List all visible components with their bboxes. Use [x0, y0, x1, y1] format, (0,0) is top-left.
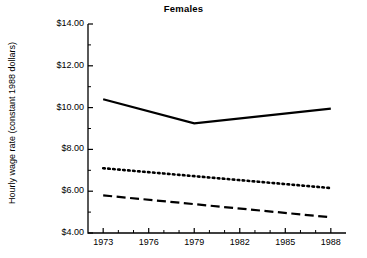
series-solid-line: [103, 99, 331, 123]
axis-spines: [88, 24, 346, 233]
series-dashed-line: [103, 195, 331, 217]
chart-figure: Females Hourly wage rate (constant 1988 …: [0, 0, 367, 258]
plot-area: [0, 0, 367, 258]
data-series-group: [103, 99, 331, 217]
series-dotted-line: [103, 168, 331, 188]
axes: [88, 24, 346, 233]
